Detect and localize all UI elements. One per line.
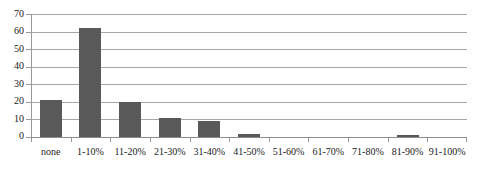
x-axis-tick xyxy=(388,138,389,142)
y-axis-tick-label: 20 xyxy=(0,96,24,106)
x-axis-tick xyxy=(110,138,111,142)
x-axis-tick xyxy=(427,138,428,142)
y-axis-labels: 70 60 50 40 30 20 10 0 xyxy=(0,0,24,169)
bar xyxy=(198,121,220,137)
x-axis-tick xyxy=(466,138,467,142)
x-axis-tick-label: 91-100% xyxy=(421,146,473,157)
y-axis-tick-label: 70 xyxy=(0,9,24,19)
bar xyxy=(397,135,419,137)
x-axis-tick xyxy=(190,138,191,142)
x-axis-tick xyxy=(31,138,32,142)
x-axis-tick xyxy=(348,138,349,142)
y-axis-tick-label: 10 xyxy=(0,114,24,124)
y-axis-tick-label: 0 xyxy=(0,131,24,141)
y-axis-tick-label: 40 xyxy=(0,61,24,71)
y-axis-tick-label: 50 xyxy=(0,44,24,54)
x-axis-tick xyxy=(308,138,309,142)
bar xyxy=(159,118,181,137)
bar xyxy=(119,102,141,137)
y-axis-tick-label: 30 xyxy=(0,79,24,89)
x-axis-tick xyxy=(229,138,230,142)
x-axis-tick xyxy=(71,138,72,142)
bar-chart: 70 60 50 40 30 20 10 0 xyxy=(0,0,479,169)
bar xyxy=(79,28,101,137)
x-axis-line xyxy=(31,137,467,138)
y-axis-tick-label: 60 xyxy=(0,26,24,36)
bar-series xyxy=(31,14,467,137)
x-axis-tick xyxy=(269,138,270,142)
x-axis-tick xyxy=(150,138,151,142)
bar xyxy=(40,100,62,137)
bar xyxy=(238,134,260,138)
